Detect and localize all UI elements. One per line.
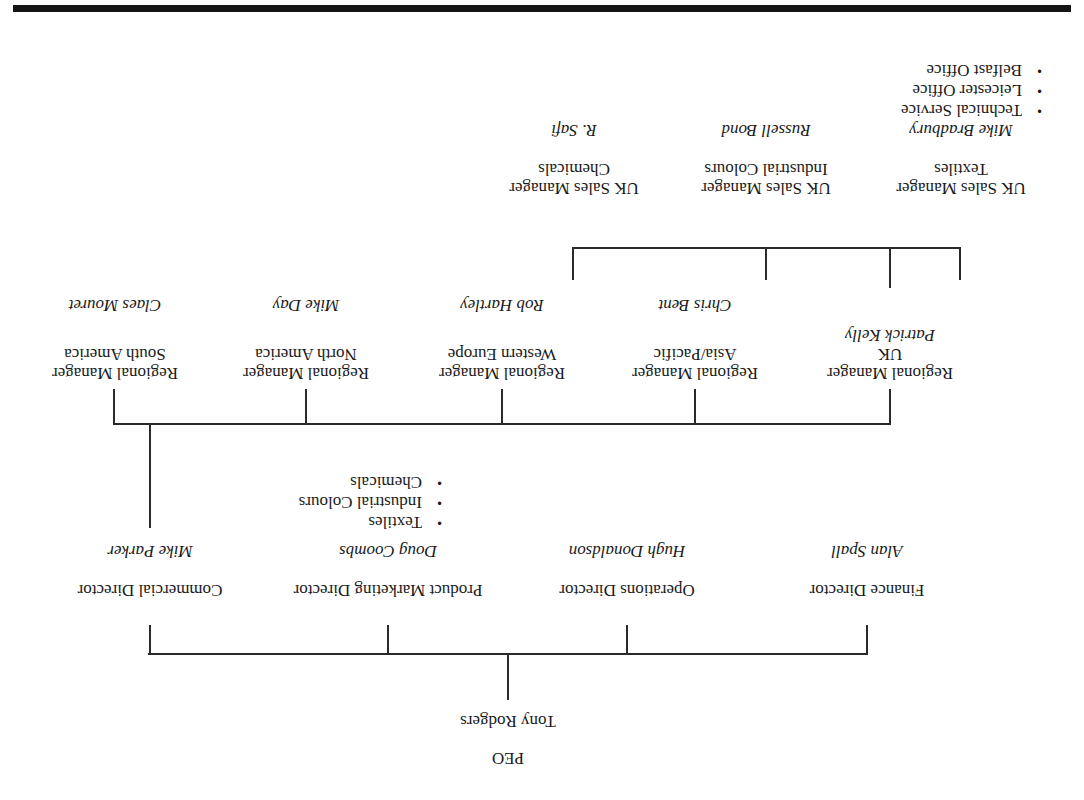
regional-region: South America <box>52 345 178 364</box>
director-finance: Finance Director Alan Spall <box>810 542 925 600</box>
sales-name: Russell Bond <box>701 121 830 140</box>
director-title: Finance Director <box>810 581 925 600</box>
org-chart: PEO Tony Rodgers Finance Director Alan S… <box>0 0 1084 800</box>
regional-name: Rob Hartley <box>439 296 565 315</box>
regional-western-europe: Regional Manager Western Europe Rob Hart… <box>439 296 565 383</box>
regional-title: Regional Manager <box>243 364 369 383</box>
list-item: Industrial Colours <box>299 492 444 512</box>
regional-name: Chris Bent <box>632 296 758 315</box>
regional-region: UK <box>827 345 953 364</box>
director-name: Hugh Donaldson <box>559 542 694 561</box>
connector-uk-colours <box>765 247 767 280</box>
director-commercial: Commercial Director Mike Parker <box>78 542 223 600</box>
list-item: Chemicals <box>299 472 444 492</box>
connector-uk-chemicals <box>572 247 574 280</box>
regional-name: Patrick Kelly <box>827 326 953 345</box>
ceo-connector <box>507 654 509 700</box>
director-title: Product Marketing Director <box>294 581 483 600</box>
ceo-title: PEO <box>460 749 556 768</box>
regional-region: Western Europe <box>439 345 565 364</box>
regional-title: Regional Manager <box>827 364 953 383</box>
director-name: Alan Spall <box>810 542 925 561</box>
product-divisions-list: Textiles Industrial Colours Chemicals <box>299 472 444 532</box>
list-item: Technical Service <box>901 100 1044 120</box>
uk-sales-chemicals: UK Sales Manager Chemicals R. Safi <box>509 121 638 198</box>
sales-name: R. Safi <box>509 121 638 140</box>
director-product-marketing: Product Marketing Director Doug Coombs <box>294 542 483 600</box>
connector-namerica <box>305 389 307 425</box>
director-name: Doug Coombs <box>294 542 483 561</box>
regional-south-america: Regional Manager South America Claes Mou… <box>52 296 178 383</box>
connector-samerica <box>113 389 115 425</box>
header-rule <box>13 5 1071 12</box>
list-item: Belfast Office <box>901 60 1044 80</box>
ceo-node: PEO Tony Rodgers <box>460 712 556 768</box>
directors-bus <box>148 653 867 655</box>
connector-commercial <box>149 625 151 655</box>
sales-title: UK Sales Manager <box>896 179 1025 198</box>
regional-title: Regional Manager <box>52 364 178 383</box>
regional-name: Mike Day <box>243 296 369 315</box>
sales-division: Textiles <box>896 160 1025 179</box>
regional-north-america: Regional Manager North America Mike Day <box>243 296 369 383</box>
connector-uk <box>889 389 891 425</box>
connector-operations <box>626 625 628 655</box>
ceo-name: Tony Rodgers <box>460 712 556 731</box>
regional-asia-pacific: Regional Manager Asia/Pacific Chris Bent <box>632 296 758 383</box>
director-name: Mike Parker <box>78 542 223 561</box>
connector-asia <box>694 389 696 425</box>
connector-finance <box>866 625 868 655</box>
connector-weurope <box>501 389 503 425</box>
uk-sales-textiles: UK Sales Manager Textiles Mike Bradbury <box>896 121 1025 198</box>
director-title: Operations Director <box>559 581 694 600</box>
uk-connector <box>889 248 891 288</box>
director-operations: Operations Director Hugh Donaldson <box>559 542 694 600</box>
uk-sales-industrial-colours: UK Sales Manager Industrial Colours Russ… <box>701 121 830 198</box>
regional-region: Asia/Pacific <box>632 345 758 364</box>
commercial-connector <box>149 424 151 528</box>
list-item: Leicester Office <box>901 80 1044 100</box>
sales-title: UK Sales Manager <box>701 179 830 198</box>
sales-division: Industrial Colours <box>701 160 830 179</box>
textiles-responsibilities-list: Technical Service Leicester Office Belfa… <box>901 60 1044 120</box>
list-item: Textiles <box>299 512 444 532</box>
sales-title: UK Sales Manager <box>509 179 638 198</box>
regional-uk: Regional Manager UK Patrick Kelly <box>827 326 953 383</box>
regional-title: Regional Manager <box>632 364 758 383</box>
connector-uk-textiles <box>959 247 961 280</box>
regional-name: Claes Mouret <box>52 296 178 315</box>
regional-region: North America <box>243 345 369 364</box>
connector-product <box>387 625 389 655</box>
sales-name: Mike Bradbury <box>896 121 1025 140</box>
sales-division: Chemicals <box>509 160 638 179</box>
director-title: Commercial Director <box>78 581 223 600</box>
regional-title: Regional Manager <box>439 364 565 383</box>
